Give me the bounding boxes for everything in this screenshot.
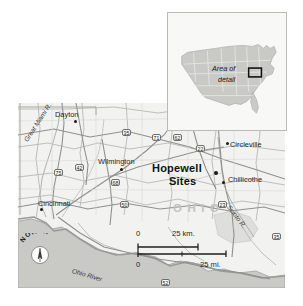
highway-shield-52[interactable]: 52 bbox=[161, 279, 170, 286]
svg-text:NORTH: NORTH bbox=[20, 233, 50, 243]
inset-label-line1: Area of bbox=[212, 65, 235, 72]
dot-circleville bbox=[226, 142, 229, 145]
city-label-wilmington: Wilmington bbox=[98, 158, 135, 165]
inset-locator-map[interactable]: Area of detail bbox=[167, 12, 287, 131]
scale-bar-lines bbox=[136, 242, 228, 258]
inset-label-line2: detail bbox=[218, 76, 235, 83]
compass-needle-icon bbox=[31, 246, 49, 264]
scale-km-max: 25 km. bbox=[172, 230, 195, 238]
highway-shield-71[interactable]: 71 bbox=[152, 134, 161, 141]
map-figure: Dayton Wilmington Cincinnati Circleville… bbox=[0, 0, 303, 306]
highway-shield-62[interactable]: 62 bbox=[173, 134, 182, 141]
site-label-hopewell-line1: Hopewell bbox=[152, 163, 202, 174]
scale-bar: 0 25 km. 0 25 mi. bbox=[136, 230, 228, 270]
dot-chillicothe bbox=[222, 181, 225, 184]
city-label-dayton: Dayton bbox=[55, 111, 78, 118]
state-label-ohio: OHIO bbox=[173, 203, 224, 215]
city-label-cincinnati: Cincinnati bbox=[38, 200, 70, 207]
scale-mi-zero: 0 bbox=[136, 261, 140, 269]
highway-shield-22[interactable]: 22 bbox=[196, 145, 205, 152]
site-label-hopewell-line2: Sites bbox=[169, 176, 196, 187]
highway-shield-75[interactable]: 75 bbox=[54, 169, 63, 176]
dot-cincinnati bbox=[40, 208, 43, 211]
scale-km-zero: 0 bbox=[136, 230, 140, 238]
compass-rose bbox=[31, 246, 49, 264]
highway-shield-50[interactable]: 50 bbox=[120, 201, 129, 208]
highway-shield-42[interactable]: 42 bbox=[75, 164, 84, 171]
city-label-circleville: Circleville bbox=[230, 141, 262, 148]
dot-hopewell-sites bbox=[214, 171, 218, 175]
highway-shield-35-north[interactable]: 35 bbox=[122, 129, 131, 136]
scale-mi-max: 25 mi. bbox=[200, 261, 221, 269]
highway-shield-35-east[interactable]: 35 bbox=[272, 233, 281, 240]
highway-shield-23[interactable]: 23 bbox=[218, 201, 227, 208]
dot-wilmington bbox=[120, 168, 123, 171]
dot-dayton bbox=[74, 120, 77, 123]
city-label-chillicothe: Chillicothe bbox=[228, 176, 262, 183]
highway-shield-68[interactable]: 68 bbox=[111, 179, 120, 186]
